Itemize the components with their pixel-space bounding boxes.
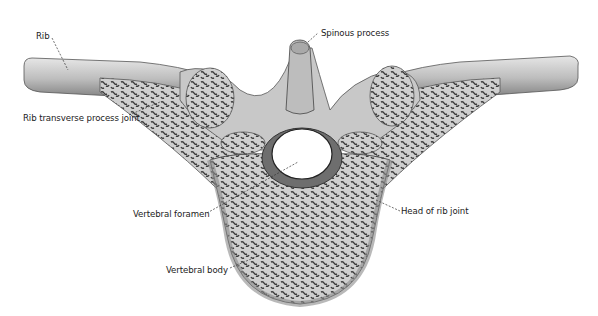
label-vertebral-body: Vertebral body [166,265,228,275]
vertebra-illustration [0,0,598,316]
anatomy-diagram: Rib Spinous process Rib transverse proce… [0,0,598,316]
label-rib: Rib [36,31,50,41]
label-vertebral-foramen: Vertebral foramen [133,209,210,219]
label-head-of-rib-joint: Head of rib joint [401,206,468,216]
label-spinous-process: Spinous process [321,28,389,38]
label-rib-transverse-process-joint: Rib transverse process joint [23,113,140,123]
